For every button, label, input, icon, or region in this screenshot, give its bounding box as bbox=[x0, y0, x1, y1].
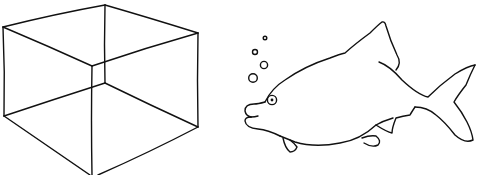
wireframe-cube-drawing bbox=[3, 5, 198, 175]
cube-top-left-edge bbox=[3, 5, 105, 27]
fish-belly bbox=[280, 125, 376, 145]
cube-left-vertical-edge bbox=[3, 27, 4, 116]
cube-front-bottom-left-edge bbox=[4, 116, 90, 175]
fish-lower-jaw bbox=[245, 117, 280, 136]
bubble-icon bbox=[263, 36, 267, 40]
fish-mouth bbox=[251, 116, 258, 117]
cube-front-bottom-right-edge bbox=[98, 127, 198, 175]
drawing-canvas bbox=[0, 0, 477, 175]
fish-pelvic-fin-front bbox=[283, 138, 297, 152]
fish-upper-lip bbox=[245, 102, 265, 117]
fish-drawing bbox=[245, 22, 475, 152]
cube-front-top-left-edge bbox=[3, 27, 92, 66]
cube-back-bottom-left-edge bbox=[4, 83, 105, 116]
cube-right-vertical-edge bbox=[198, 33, 199, 127]
cube-back-bottom-right-edge bbox=[105, 83, 198, 127]
fish-anal-fin bbox=[376, 107, 415, 133]
cube-top-right-edge bbox=[105, 5, 198, 33]
bubble-icon bbox=[253, 50, 258, 55]
fish-tail-rear bbox=[415, 65, 475, 141]
bubble-icon bbox=[249, 74, 258, 83]
cube-front-vertical-edge bbox=[92, 66, 93, 175]
cube-back-vertical-edge bbox=[105, 5, 106, 83]
cube-front-top-right-edge bbox=[92, 33, 198, 66]
fish-pelvic-fin-rear bbox=[362, 136, 380, 146]
bubble-icon bbox=[260, 61, 267, 68]
fish-pupil-icon bbox=[271, 99, 274, 102]
